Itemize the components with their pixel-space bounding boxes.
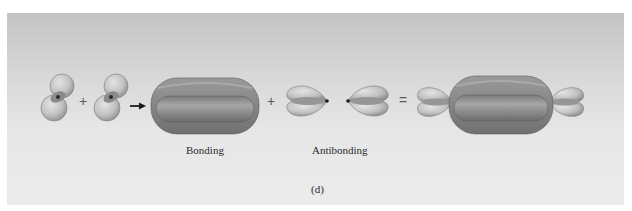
plus-operator-2: + bbox=[267, 93, 275, 109]
antibonding-label: Antibonding bbox=[312, 144, 368, 156]
equals-operator: = bbox=[399, 92, 407, 108]
plus-operator-1: + bbox=[79, 93, 87, 109]
nucleus-icon bbox=[109, 95, 113, 99]
nucleus-icon bbox=[56, 95, 60, 99]
antibonding-lobe-left bbox=[287, 86, 329, 116]
p-orbital-2 bbox=[94, 74, 128, 121]
arrow-right-icon bbox=[130, 103, 146, 110]
p-orbital-1 bbox=[41, 74, 74, 121]
bonding-label: Bonding bbox=[186, 144, 224, 156]
nucleus-icon bbox=[346, 99, 350, 103]
combined-orbital bbox=[417, 76, 583, 134]
orbital-diagram bbox=[0, 0, 632, 211]
antibonding-lobe-right bbox=[346, 86, 388, 116]
bonding-orbital bbox=[151, 78, 259, 134]
panel-label: (d) bbox=[311, 183, 324, 195]
nucleus-icon bbox=[325, 99, 329, 103]
